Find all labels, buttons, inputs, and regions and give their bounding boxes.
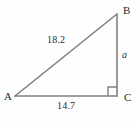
vertex-label-a: A (4, 91, 12, 102)
hypotenuse-line (15, 14, 117, 96)
side-variable-a: a (122, 50, 127, 60)
side-length-hypotenuse: 18.2 (47, 35, 65, 45)
side-length-base: 14.7 (57, 101, 75, 111)
right-angle-marker-icon (108, 87, 117, 96)
vertex-label-b: B (123, 5, 130, 16)
vertex-label-c: C (124, 92, 131, 103)
right-triangle-figure: B A C 18.2 14.7 a (0, 0, 138, 122)
